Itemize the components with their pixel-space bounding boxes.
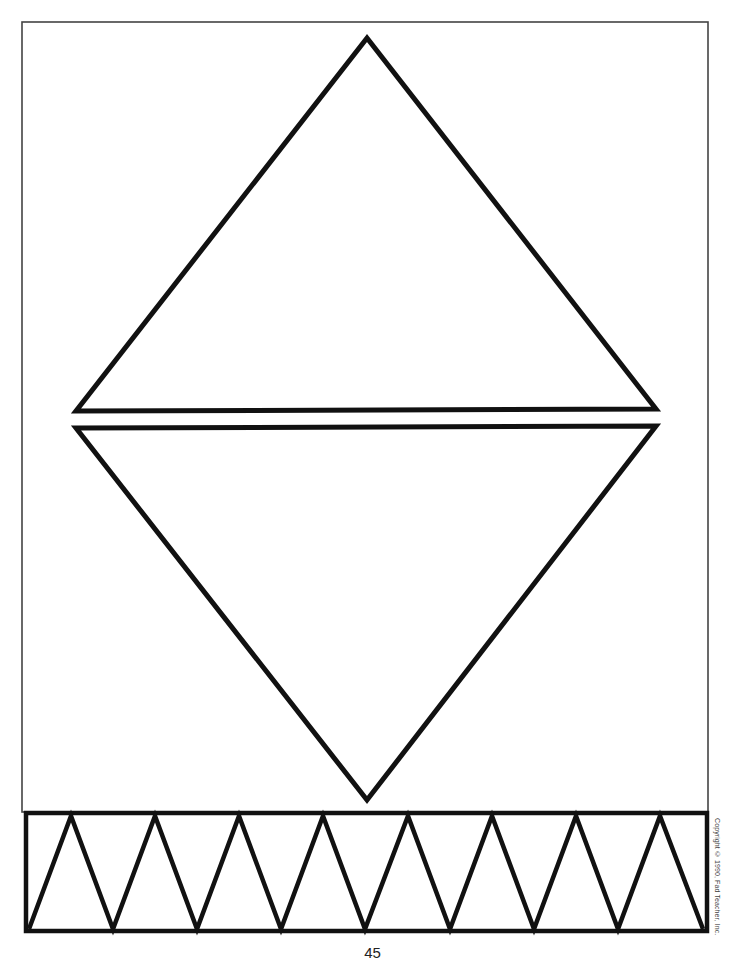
upper-triangle [76, 38, 656, 411]
lower-triangle [76, 426, 656, 800]
copyright-notice: Copyright © 1990, Fad Teacher, Inc. [714, 818, 721, 935]
zigzag-band-border [26, 813, 707, 931]
page-number: 45 [0, 944, 745, 961]
worksheet-page: Copyright © 1990, Fad Teacher, Inc. 45 [0, 0, 745, 967]
worksheet-artwork [0, 0, 745, 967]
